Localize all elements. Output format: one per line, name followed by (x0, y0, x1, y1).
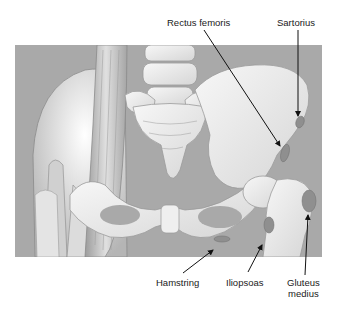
hamstring-attachment (214, 236, 230, 242)
label-gluteus-medius-line2: medius (287, 288, 320, 299)
label-iliopsoas: Iliopsoas (226, 277, 264, 288)
gluteus-medius-attachment (302, 190, 316, 212)
label-gluteus-medius: Gluteus medius (287, 277, 320, 299)
sacrum (133, 104, 207, 179)
pelvis-illustration (15, 45, 322, 257)
illustration-panel (15, 45, 322, 257)
label-gluteus-medius-line1: Gluteus (287, 277, 320, 288)
label-rectus-femoris: Rectus femoris (167, 17, 230, 28)
label-sartorius: Sartorius (277, 17, 315, 28)
label-hamstring: Hamstring (156, 277, 199, 288)
iliopsoas-attachment (264, 217, 274, 233)
right-ilium (195, 65, 309, 188)
